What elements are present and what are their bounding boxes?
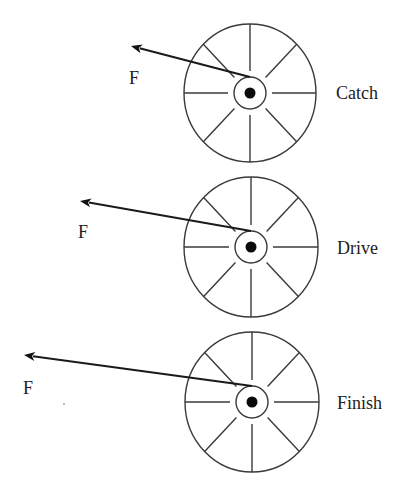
axle-dot	[247, 397, 258, 408]
wheel-spoke	[267, 263, 299, 297]
force-label: F	[78, 222, 88, 242]
phase-label-drive: Drive	[337, 238, 378, 258]
phase-label-finish: Finish	[337, 393, 382, 413]
wheel-force-diagram: F Catch F Drive F Finish	[0, 0, 409, 498]
wheel-catch: F Catch	[129, 24, 378, 162]
phase-label-catch: Catch	[336, 83, 378, 103]
force-arrow-line	[33, 356, 252, 386]
force-arrow-line	[140, 48, 250, 77]
axle-dot	[245, 88, 256, 99]
force-label: F	[23, 378, 33, 398]
wheel-spoke	[268, 418, 300, 452]
wheel-spoke	[266, 44, 297, 77]
force-label: F	[129, 68, 139, 88]
wheel-spoke	[205, 418, 237, 452]
wheel-spoke	[266, 109, 297, 142]
force-arrow-line	[89, 203, 251, 231]
wheel-spoke	[268, 353, 300, 387]
wheel-finish: F Finish	[23, 332, 382, 472]
wheel-spoke	[204, 263, 236, 297]
scan-speck	[63, 403, 65, 405]
wheel-spoke	[203, 109, 234, 142]
wheel-drive: F Drive	[78, 177, 378, 317]
axle-dot	[246, 242, 257, 253]
wheel-spoke	[267, 198, 299, 232]
